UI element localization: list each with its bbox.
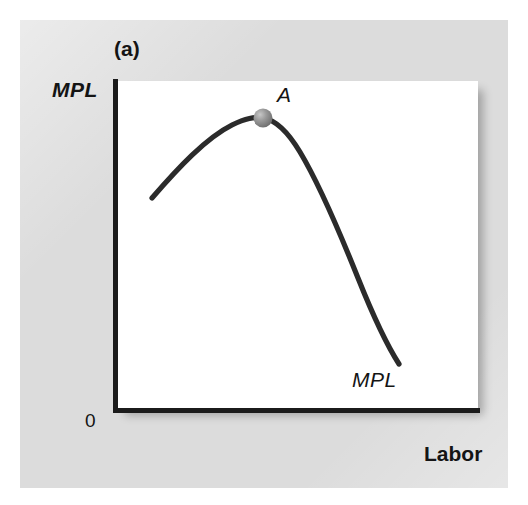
y-axis-title: MPL (52, 79, 98, 100)
figure-root: (a) MPL 0 Labor A MPL (0, 0, 528, 505)
x-axis-title: Labor (424, 443, 482, 464)
y-axis-line (113, 79, 118, 413)
mpl-curve-label: MPL (352, 369, 397, 390)
origin-label: 0 (85, 411, 96, 430)
point-a-label: A (277, 84, 291, 105)
plot-area (116, 81, 478, 410)
x-axis-line (113, 408, 480, 413)
panel-letter-label: (a) (114, 38, 140, 59)
